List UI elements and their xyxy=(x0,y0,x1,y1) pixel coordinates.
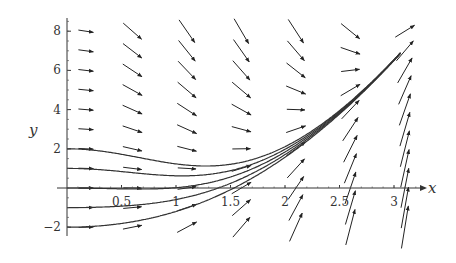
slope-arrow xyxy=(399,76,412,105)
slope-arrow xyxy=(395,25,414,37)
slope-arrow xyxy=(232,104,251,115)
slope-arrow xyxy=(123,105,143,114)
slope-arrow xyxy=(78,50,93,52)
slope-arrow xyxy=(287,159,304,178)
solution-curve xyxy=(67,53,401,176)
direction-field-plot: 0.511.522.53 −22468 x y xyxy=(0,0,456,263)
slope-arrow xyxy=(287,109,305,110)
slope-arrow xyxy=(290,213,303,241)
slope-arrow xyxy=(233,217,250,237)
slope-arrow xyxy=(341,69,359,71)
slope-arrow xyxy=(287,41,304,61)
slope-arrow xyxy=(179,40,196,61)
slope-arrow xyxy=(232,82,250,98)
slope-arrow xyxy=(123,23,141,39)
x-tick-label: 1.5 xyxy=(221,195,240,209)
y-tick-label: 6 xyxy=(53,63,61,77)
slope-arrow xyxy=(396,41,413,61)
slope-arrow xyxy=(78,109,93,110)
slope-arrow xyxy=(401,206,408,249)
solution-curve xyxy=(67,53,401,207)
y-tick-label: 8 xyxy=(53,24,61,38)
slope-arrow xyxy=(234,19,249,44)
slope-arrow xyxy=(78,30,93,32)
slope-arrow xyxy=(232,127,251,132)
slope-arrow xyxy=(123,85,142,96)
slope-arrow xyxy=(179,20,195,43)
y-tick-label: 2 xyxy=(53,142,61,156)
slope-arrow xyxy=(344,135,357,162)
slope-arrow xyxy=(123,64,142,77)
slope-arrow xyxy=(123,126,142,133)
slope-arrow xyxy=(123,225,142,229)
slope-arrow xyxy=(123,167,141,169)
slope-arrow xyxy=(233,61,250,80)
slope-arrow xyxy=(177,146,196,151)
slope-arrow xyxy=(78,129,93,130)
y-tick-label: 4 xyxy=(53,103,61,117)
slope-field-arrows xyxy=(78,19,414,249)
slope-arrow xyxy=(400,112,410,146)
x-tick-label: 2 xyxy=(281,195,289,209)
slope-arrow xyxy=(286,126,305,133)
slope-arrow xyxy=(341,84,360,95)
slope-arrow xyxy=(401,187,408,228)
slope-arrow xyxy=(288,19,303,43)
slope-arrow xyxy=(123,147,142,151)
y-tick-label: −2 xyxy=(43,220,61,234)
slope-arrow xyxy=(341,47,360,54)
slope-arrow xyxy=(401,150,409,188)
slope-arrow xyxy=(286,86,306,94)
slope-arrow xyxy=(400,131,409,167)
y-axis-label: y xyxy=(28,121,38,139)
x-axis-arrowhead-icon xyxy=(420,185,427,191)
slope-arrow xyxy=(177,222,196,232)
x-axis-label: x xyxy=(428,179,437,197)
slope-arrow xyxy=(177,125,197,134)
slope-arrow xyxy=(177,103,196,116)
x-tick-label: 1 xyxy=(172,195,180,209)
slope-arrow xyxy=(346,209,355,245)
slope-arrow xyxy=(78,70,93,72)
slope-arrow xyxy=(178,168,196,169)
slope-arrow xyxy=(178,82,196,98)
x-tick-label: 0.5 xyxy=(112,195,131,209)
slope-arrow xyxy=(123,44,142,58)
slope-arrow xyxy=(78,89,93,90)
x-tick-label: 3 xyxy=(390,195,398,209)
slope-arrow xyxy=(287,63,306,78)
slope-arrow xyxy=(234,40,250,62)
x-tick-label: 2.5 xyxy=(330,195,349,209)
slope-arrow xyxy=(178,61,196,79)
slope-arrow xyxy=(341,24,360,39)
